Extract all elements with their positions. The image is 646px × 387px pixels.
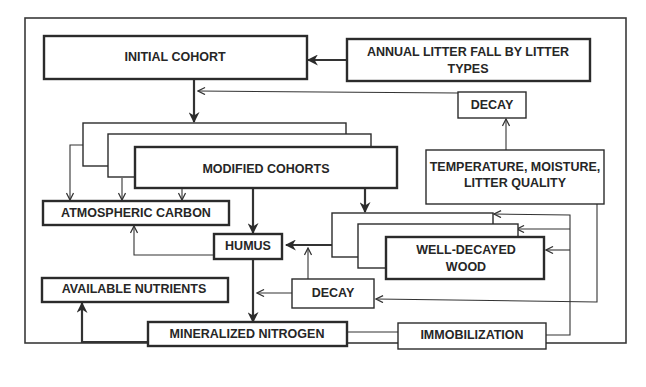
wood-label-line1: WELL-DECAYED (416, 243, 516, 257)
node-temperature-moisture: TEMPERATURE, MOISTURE, LITTER QUALITY (426, 150, 604, 204)
atmospheric-carbon-label: ATMOSPHERIC CARBON (61, 206, 211, 220)
node-humus: HUMUS (214, 234, 282, 259)
node-decay-bottom: DECAY (292, 279, 374, 308)
temperature-label-line1: TEMPERATURE, MOISTURE, (430, 160, 601, 174)
initial-cohort-label: INITIAL COHORT (124, 50, 226, 64)
available-nutrients-label: AVAILABLE NUTRIENTS (62, 282, 207, 296)
annual-litter-label-line1: ANNUAL LITTER FALL BY LITTER (367, 45, 569, 59)
node-modified-cohorts-stack: MODIFIED COHORTS (83, 123, 397, 188)
wood-label-line2: WOOD (446, 260, 486, 274)
decay-bottom-label: DECAY (312, 286, 355, 300)
edge-decay-to-stem (198, 91, 458, 93)
immobilization-label: IMMOBILIZATION (420, 328, 523, 342)
node-atmospheric-carbon: ATMOSPHERIC CARBON (43, 201, 229, 225)
edge-mineralized-to-nutrients (82, 303, 148, 342)
node-initial-cohort: INITIAL COHORT (44, 36, 307, 79)
decay-top-label: DECAY (471, 98, 514, 112)
node-available-nutrients: AVAILABLE NUTRIENTS (42, 278, 228, 302)
mineralized-nitrogen-label: MINERALIZED NITROGEN (170, 327, 325, 341)
node-decay-top: DECAY (458, 92, 526, 118)
litter-decomposition-diagram: INITIAL COHORT ANNUAL LITTER FALL BY LIT… (0, 0, 646, 387)
node-annual-litter-fall: ANNUAL LITTER FALL BY LITTER TYPES (347, 39, 590, 81)
humus-label: HUMUS (225, 239, 271, 253)
modified-cohorts-label: MODIFIED COHORTS (202, 162, 329, 176)
temperature-label-line2: LITTER QUALITY (464, 176, 567, 190)
annual-litter-label-line2: TYPES (448, 62, 489, 76)
node-mineralized-nitrogen: MINERALIZED NITROGEN (148, 322, 347, 346)
edge-humus-to-atm (134, 226, 214, 255)
node-well-decayed-wood-stack: WELL-DECAYED WOOD (332, 213, 544, 279)
node-immobilization: IMMOBILIZATION (398, 323, 546, 349)
edge-cohort1-to-atm (70, 145, 83, 200)
